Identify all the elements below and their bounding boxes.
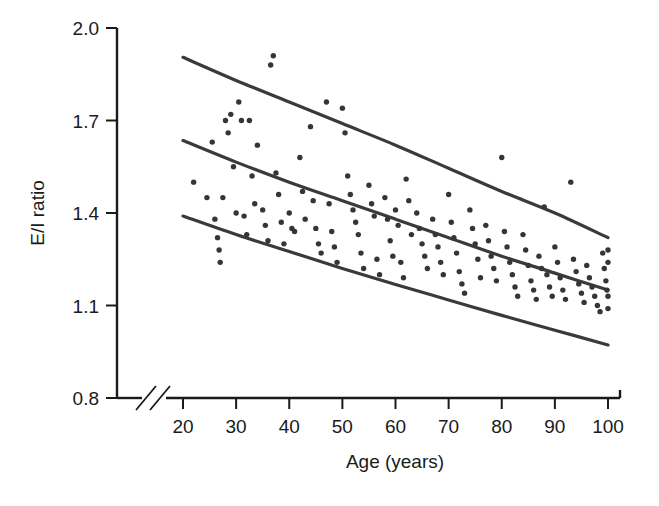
x-tick-label: 70 [438,416,459,437]
data-point [430,216,435,221]
data-point [228,112,233,117]
data-point [329,229,334,234]
data-point [589,284,594,289]
data-point [536,253,541,258]
data-point [544,272,549,277]
data-point [419,241,424,246]
data-point [216,247,221,252]
data-point [324,99,329,104]
data-point [515,294,520,299]
data-point [297,155,302,160]
data-point [478,275,483,280]
data-point [441,272,446,277]
data-point [268,62,273,67]
data-point [422,253,427,258]
data-point [502,229,507,234]
data-point [372,213,377,218]
data-point [587,275,592,280]
data-point [241,213,246,218]
data-point [433,232,438,237]
data-point [539,266,544,271]
data-point [204,195,209,200]
y-tick-label: 1.4 [73,203,100,224]
data-point [472,241,477,246]
data-point [552,244,557,249]
data-point [563,297,568,302]
data-point [247,118,252,123]
data-point [571,257,576,262]
data-point [271,53,276,58]
y-axis-ticks [106,28,117,398]
data-point [528,278,533,283]
data-point [600,250,605,255]
data-point [547,284,552,289]
data-point [417,226,422,231]
x-tick-label: 100 [592,416,624,437]
data-point [231,164,236,169]
data-point [281,241,286,246]
data-point [579,290,584,295]
data-point [326,201,331,206]
data-point [345,173,350,178]
scatter-plot-canvas: 0.81.11.41.72.0 E/I ratio 20304050607080… [0,0,659,506]
x-axis-title: Age (years) [346,451,444,472]
data-point [249,173,254,178]
data-point [318,250,323,255]
data-point [239,118,244,123]
x-axis-ticks [183,398,608,409]
data-point [395,223,400,228]
data-point [225,130,230,135]
data-point [459,281,464,286]
data-point [494,278,499,283]
data-point [308,124,313,129]
data-point [353,220,358,225]
data-point [210,139,215,144]
data-point [584,263,589,268]
data-point [603,278,608,283]
data-point [604,287,609,292]
data-point [276,192,281,197]
data-point [512,284,517,289]
data-point [401,275,406,280]
data-point [470,226,475,231]
data-point [348,192,353,197]
data-point [310,198,315,203]
data-point [316,241,321,246]
data-point [550,294,555,299]
data-point [236,99,241,104]
data-point [449,220,454,225]
reference-curves-layer [183,57,608,345]
data-point [576,281,581,286]
data-point [557,275,562,280]
x-tick-label: 30 [226,416,247,437]
data-point [273,170,278,175]
data-point [361,266,366,271]
data-point [212,216,217,221]
y-axis-group: 0.81.11.41.72.0 E/I ratio [27,18,117,409]
mean-curve [183,141,608,291]
data-point [438,260,443,265]
data-point [457,269,462,274]
x-tick-label: 90 [544,416,565,437]
data-point [507,260,512,265]
y-tick-label: 2.0 [73,18,99,39]
data-point [369,201,374,206]
data-point [454,250,459,255]
data-points-layer [191,53,611,314]
data-point [302,216,307,221]
data-point [233,210,238,215]
data-point [520,232,525,237]
data-point [255,142,260,147]
data-point [358,250,363,255]
x-tick-label: 50 [332,416,353,437]
data-point [446,192,451,197]
data-point [292,229,297,234]
data-point [366,183,371,188]
data-point [217,260,222,265]
data-point [223,118,228,123]
data-point [393,207,398,212]
data-point [252,201,257,206]
data-point [486,238,491,243]
data-point [287,210,292,215]
data-point [523,247,528,252]
